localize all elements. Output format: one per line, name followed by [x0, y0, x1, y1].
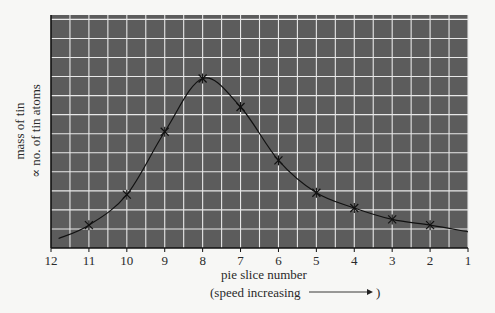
- x-tick-label: 5: [313, 253, 320, 268]
- x-axis-subtitle: (speed increasing: [210, 285, 301, 300]
- x-tick-label: 11: [83, 253, 96, 268]
- x-axis-ticks: 121110987654321: [45, 248, 472, 268]
- x-tick-label: 4: [351, 253, 358, 268]
- chart: 121110987654321 mass of tin ∝ no. of tin…: [0, 0, 495, 313]
- x-axis-title: pie slice number: [221, 267, 308, 282]
- x-tick-label: 3: [389, 253, 396, 268]
- y-axis-title-line1: mass of tin: [12, 102, 27, 160]
- x-axis-subtitle-close: ): [376, 285, 380, 300]
- x-tick-label: 2: [427, 253, 434, 268]
- x-tick-label: 8: [199, 253, 206, 268]
- x-tick-label: 12: [45, 253, 58, 268]
- x-tick-label: 6: [275, 253, 282, 268]
- y-axis-title-line2: ∝ no. of tin atoms: [28, 84, 43, 178]
- x-tick-label: 1: [465, 253, 472, 268]
- x-tick-label: 7: [237, 253, 244, 268]
- x-tick-label: 10: [120, 253, 133, 268]
- speed-arrow-icon: [309, 289, 373, 295]
- x-tick-label: 9: [161, 253, 168, 268]
